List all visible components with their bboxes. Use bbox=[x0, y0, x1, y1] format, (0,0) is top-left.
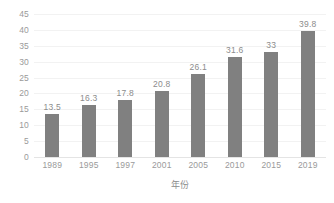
x-axis-tick-label: 1989 bbox=[34, 160, 71, 170]
bar-group: 33 bbox=[253, 14, 290, 157]
x-axis-tick-label: 1995 bbox=[71, 160, 108, 170]
x-axis-title: 年份 bbox=[34, 178, 326, 191]
bar[interactable] bbox=[155, 91, 169, 157]
x-axis-tick-label: 2015 bbox=[253, 160, 290, 170]
bar[interactable] bbox=[191, 74, 205, 157]
bar-value-label: 17.8 bbox=[117, 88, 134, 98]
bar-group: 13.5 bbox=[34, 14, 71, 157]
bar[interactable] bbox=[228, 57, 242, 157]
x-axis-line: 0 bbox=[34, 157, 326, 158]
y-axis-tick-label: 40 bbox=[19, 25, 29, 35]
y-axis-tick-label: 5 bbox=[24, 136, 29, 146]
y-axis-tick-label: 45 bbox=[19, 9, 29, 19]
bar[interactable] bbox=[118, 100, 132, 157]
bar-value-label: 20.8 bbox=[153, 79, 170, 89]
x-axis-tick-label: 2001 bbox=[144, 160, 181, 170]
bar[interactable] bbox=[45, 114, 59, 157]
bar-value-label: 33 bbox=[266, 40, 276, 50]
bar-value-label: 31.6 bbox=[226, 45, 243, 55]
y-axis-tick-label: 10 bbox=[19, 120, 29, 130]
bar-group: 39.8 bbox=[290, 14, 327, 157]
plot-area: 454035302520151050 13.516.317.820.826.13… bbox=[34, 14, 326, 157]
y-axis-tick-label: 25 bbox=[19, 73, 29, 83]
bar-group: 17.8 bbox=[107, 14, 144, 157]
y-axis-tick-label: 15 bbox=[19, 104, 29, 114]
bar-value-label: 26.1 bbox=[190, 62, 207, 72]
bar-value-label: 13.5 bbox=[44, 102, 61, 112]
y-axis-tick-label: 30 bbox=[19, 57, 29, 67]
bar-group: 16.3 bbox=[71, 14, 108, 157]
bar-group: 31.6 bbox=[217, 14, 254, 157]
bar-chart: 454035302520151050 13.516.317.820.826.13… bbox=[0, 0, 334, 203]
x-axis-tick-label: 2019 bbox=[290, 160, 327, 170]
bar-group: 20.8 bbox=[144, 14, 181, 157]
bar-value-label: 39.8 bbox=[299, 19, 316, 29]
y-axis-tick-label: 35 bbox=[19, 41, 29, 51]
y-axis-tick-label: 20 bbox=[19, 88, 29, 98]
bar[interactable] bbox=[82, 105, 96, 157]
x-axis-ticks: 19891995199720012005201020152019 bbox=[34, 160, 326, 170]
y-axis-tick-label: 0 bbox=[24, 152, 29, 162]
bar[interactable] bbox=[301, 31, 315, 157]
bars-layer: 13.516.317.820.826.131.63339.8 bbox=[34, 14, 326, 157]
x-axis-tick-label: 2010 bbox=[217, 160, 254, 170]
x-axis-tick-label: 1997 bbox=[107, 160, 144, 170]
x-axis-tick-label: 2005 bbox=[180, 160, 217, 170]
bar[interactable] bbox=[264, 52, 278, 157]
bar-group: 26.1 bbox=[180, 14, 217, 157]
bar-value-label: 16.3 bbox=[80, 93, 97, 103]
